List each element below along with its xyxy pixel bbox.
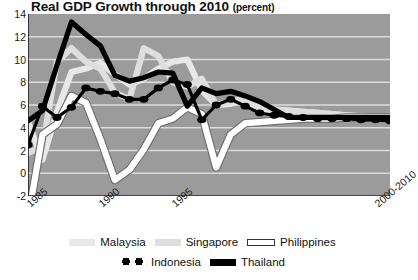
legend-row-1: Malaysia Singapore Philippines <box>0 232 405 252</box>
legend-item-thailand[interactable]: Thailand <box>210 256 285 268</box>
y-axis-tick-labels: 14121086420-2 <box>0 14 26 196</box>
y-tick-label: 12 <box>0 32 26 43</box>
y-tick-label: 8 <box>0 77 26 88</box>
y-tick-label: 0 <box>0 168 26 179</box>
philippines-swatch-icon <box>247 239 275 246</box>
chart-title-unit: (percent) <box>233 2 275 13</box>
chart-canvas <box>28 14 390 196</box>
legend-label-indonesia: Indonesia <box>151 256 201 268</box>
thailand-swatch-icon <box>210 259 236 266</box>
chart-title-text: Real GDP Growth through 2010 <box>31 0 229 14</box>
malaysia-swatch-icon <box>69 239 95 246</box>
y-tick-label: 10 <box>0 55 26 66</box>
legend-item-malaysia[interactable]: Malaysia <box>69 236 145 248</box>
y-tick-label: 2 <box>0 146 26 157</box>
legend-item-philippines[interactable]: Philippines <box>247 236 336 248</box>
page-title: Real GDP Growth through 2010 (percent) <box>31 0 275 14</box>
legend-label-thailand: Thailand <box>241 256 285 268</box>
legend-item-singapore[interactable]: Singapore <box>155 236 238 248</box>
legend-label-singapore: Singapore <box>186 236 238 248</box>
indonesia-swatch-icon <box>120 258 146 266</box>
legend-label-malaysia: Malaysia <box>100 236 145 248</box>
plot-area <box>28 14 390 196</box>
y-tick-label: 14 <box>0 9 26 20</box>
y-tick-label: 4 <box>0 123 26 134</box>
chart-legend: Malaysia Singapore Philippines Indonesia… <box>0 232 405 272</box>
singapore-swatch-icon <box>155 239 181 246</box>
y-tick-label: 6 <box>0 100 26 111</box>
legend-label-philippines: Philippines <box>280 236 336 248</box>
legend-item-indonesia[interactable]: Indonesia <box>120 256 201 268</box>
legend-row-2: Indonesia Thailand <box>0 252 405 272</box>
x-axis-tick-labels: 1985199019952000-2010 <box>0 198 405 230</box>
